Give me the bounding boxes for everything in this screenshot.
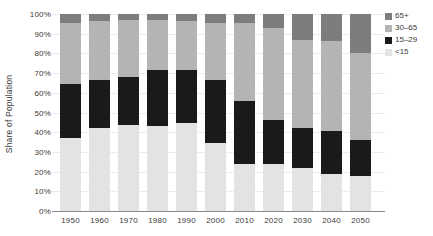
legend-swatch-icon xyxy=(385,37,392,44)
bar-segment-1970-15-29 xyxy=(118,77,139,125)
x-tick-label: 2030 xyxy=(289,216,317,225)
bar-segment-2020-30-65 xyxy=(263,28,284,121)
bar-segment-1990-65+ xyxy=(176,14,197,21)
bar-segment-2030-65+ xyxy=(292,14,313,40)
y-tick-label: 50% xyxy=(0,108,51,117)
x-tick-label: 1950 xyxy=(57,216,85,225)
bar-segment-1970-65+ xyxy=(118,14,139,20)
legend-swatch-icon xyxy=(385,49,392,56)
bar-segment-2040-30-65 xyxy=(321,41,342,132)
bar-segment-2010-15-29 xyxy=(234,101,255,164)
x-tick-label: 1980 xyxy=(144,216,172,225)
bar-segment-1970-30-65 xyxy=(118,20,139,77)
bar-segment-2050-<15 xyxy=(350,176,371,211)
x-tick-label: 2040 xyxy=(318,216,346,225)
bar-segment-1990-30-65 xyxy=(176,21,197,70)
bar-segment-1950-30-65 xyxy=(60,23,81,84)
stacked-bar-chart: Share of Population 0%10%20%30%40%50%60%… xyxy=(0,0,433,236)
legend-label: 65+ xyxy=(395,12,409,20)
y-tick-label: 40% xyxy=(0,128,51,137)
bar-segment-2010-<15 xyxy=(234,164,255,211)
legend-item: 15–29 xyxy=(385,36,417,44)
x-tick-label: 2050 xyxy=(347,216,375,225)
bar-segment-1990-<15 xyxy=(176,123,197,211)
bar-segment-2030-30-65 xyxy=(292,40,313,129)
bar-segment-2020-15-29 xyxy=(263,120,284,163)
bar-segment-1980-65+ xyxy=(147,14,168,20)
x-tick-label: 2000 xyxy=(202,216,230,225)
bar-segment-2010-65+ xyxy=(234,14,255,23)
legend-label: 30–65 xyxy=(395,24,417,32)
bar-segment-1950-15-29 xyxy=(60,84,81,138)
bar-segment-2030-<15 xyxy=(292,168,313,211)
bar-segment-1960-<15 xyxy=(89,128,110,211)
bar-segment-1990-15-29 xyxy=(176,70,197,123)
legend-item: <15 xyxy=(385,48,417,56)
y-tick-label: 60% xyxy=(0,88,51,97)
bar-segment-2010-30-65 xyxy=(234,23,255,101)
chart-legend: 65+30–6515–29<15 xyxy=(385,12,417,56)
bar-segment-1950-<15 xyxy=(60,138,81,211)
y-tick-label: 80% xyxy=(0,49,51,58)
bar-segment-2000-15-29 xyxy=(205,80,226,143)
bar-segment-1980-<15 xyxy=(147,126,168,211)
y-tick-label: 30% xyxy=(0,147,51,156)
y-tick-label: 100% xyxy=(0,10,51,19)
x-axis-line xyxy=(52,211,385,212)
y-tick-label: 0% xyxy=(0,207,51,216)
bar-segment-2040-<15 xyxy=(321,174,342,211)
bar-segment-2050-30-65 xyxy=(350,53,371,140)
bar-segment-1980-30-65 xyxy=(147,20,168,70)
bar-segment-2040-65+ xyxy=(321,14,342,41)
legend-swatch-icon xyxy=(385,25,392,32)
bar-segment-1970-<15 xyxy=(118,125,139,211)
bar-segment-2050-15-29 xyxy=(350,140,371,175)
bar-segment-2000-<15 xyxy=(205,143,226,211)
legend-label: <15 xyxy=(395,48,409,56)
bar-segment-1960-30-65 xyxy=(89,21,110,80)
bar-segment-1960-15-29 xyxy=(89,80,110,128)
bar-segment-1950-65+ xyxy=(60,14,81,23)
y-tick-label: 10% xyxy=(0,187,51,196)
bar-segment-2000-65+ xyxy=(205,14,226,23)
bar-segment-2020-65+ xyxy=(263,14,284,28)
bar-segment-2050-65+ xyxy=(350,14,371,53)
x-tick-label: 2020 xyxy=(260,216,288,225)
bar-segment-1960-65+ xyxy=(89,14,110,21)
y-tick-label: 90% xyxy=(0,29,51,38)
y-tick-label: 70% xyxy=(0,69,51,78)
bar-segment-2040-15-29 xyxy=(321,131,342,173)
x-tick-label: 1990 xyxy=(173,216,201,225)
legend-swatch-icon xyxy=(385,13,392,20)
bar-segment-2030-15-29 xyxy=(292,128,313,167)
bar-segment-2000-30-65 xyxy=(205,23,226,80)
bar-segment-1980-15-29 xyxy=(147,70,168,126)
bar-segment-2020-<15 xyxy=(263,164,284,211)
y-tick-label: 20% xyxy=(0,167,51,176)
x-tick-label: 2010 xyxy=(231,216,259,225)
legend-item: 65+ xyxy=(385,12,417,20)
x-tick-label: 1960 xyxy=(86,216,114,225)
x-tick-label: 1970 xyxy=(115,216,143,225)
legend-label: 15–29 xyxy=(395,36,417,44)
legend-item: 30–65 xyxy=(385,24,417,32)
